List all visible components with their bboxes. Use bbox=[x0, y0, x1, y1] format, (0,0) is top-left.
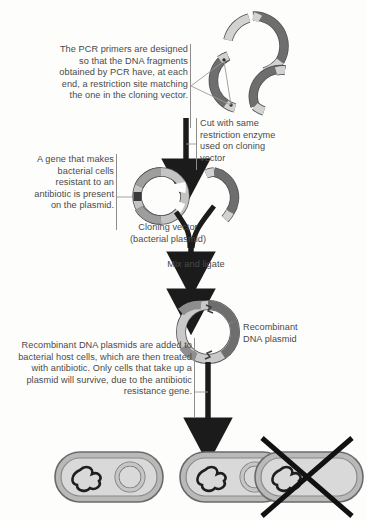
recombinant-plasmid-label: Recombinant DNA plasmid bbox=[243, 322, 341, 345]
cut-step-divider bbox=[196, 118, 197, 170]
cloning-diagram: The PCR primers are designed so that the… bbox=[0, 0, 367, 520]
pcr-primers-callout: The PCR primers are designed so that the… bbox=[58, 44, 188, 102]
cloning-vector-label: Cloning vector (bacterial plasmid) bbox=[122, 222, 214, 245]
bacterial-cell-1 bbox=[55, 452, 163, 502]
pcr-callout-divider bbox=[190, 44, 191, 128]
mix-and-ligate-label: Mix and ligate bbox=[152, 259, 240, 271]
transformation-divider bbox=[194, 338, 195, 418]
bacterial-cell-3-killed bbox=[255, 438, 363, 516]
dna-fragment-1 bbox=[228, 16, 284, 72]
resistance-gene-marker bbox=[134, 192, 142, 201]
resistance-gene-callout: A gene that makes bacterial cells resist… bbox=[22, 154, 114, 212]
dna-fragment-3 bbox=[253, 70, 285, 111]
resistance-gene-divider bbox=[116, 154, 117, 230]
cut-step-label: Cut with same restriction enzyme used on… bbox=[200, 118, 290, 164]
transformation-callout: Recombinant DNA plasmids are added to ba… bbox=[18, 340, 192, 398]
